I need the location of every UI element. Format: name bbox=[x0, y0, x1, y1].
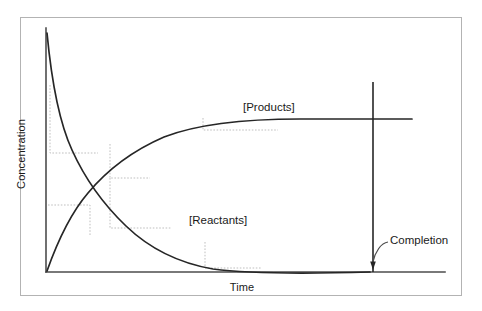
tangent-box-reactants-early bbox=[50, 85, 98, 153]
plot-area bbox=[0, 0, 482, 311]
chart-figure: Concentration Time [Products] [Reactants… bbox=[0, 0, 482, 311]
products-curve bbox=[47, 119, 412, 271]
y-axis-label: Concentration bbox=[15, 104, 27, 204]
tangent-box-products-mid bbox=[110, 144, 150, 178]
products-series-label: [Products] bbox=[243, 101, 295, 113]
x-axis-label: Time bbox=[192, 281, 292, 293]
completion-annotation-label: Completion bbox=[390, 234, 448, 246]
reactants-series-label: [Reactants] bbox=[189, 214, 247, 226]
tangent-box-reactants-late bbox=[205, 242, 262, 268]
axis-lines bbox=[46, 28, 445, 272]
